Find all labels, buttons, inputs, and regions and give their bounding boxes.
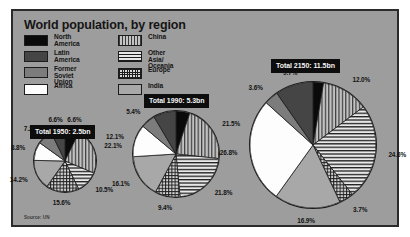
pie-chart-2150: 2.7%12.0%24.6%3.7%16.9%26.8%3.6%9.7%Tota… bbox=[13, 11, 397, 225]
chart-frame: World population, by region North Americ… bbox=[11, 9, 399, 227]
pie-2150-label-india: 16.9% bbox=[297, 217, 315, 223]
chart-figure: World population, by region North Americ… bbox=[0, 0, 410, 237]
pie-2150-label-europe: 3.7% bbox=[353, 206, 367, 212]
pie-2150-slices bbox=[250, 82, 376, 208]
pie-2150-label-other-asia: 24.6% bbox=[388, 151, 406, 157]
pie-2150-label-china: 12.0% bbox=[353, 77, 371, 83]
pie-title-2150: Total 2150: 11.5bn bbox=[271, 59, 340, 73]
pie-2150-label-former-soviet-union: 3.6% bbox=[249, 85, 263, 91]
pie-2150-label-africa: 26.8% bbox=[220, 150, 238, 156]
chart-canvas: World population, by region North Americ… bbox=[13, 11, 397, 225]
source-note: Source: UN bbox=[24, 215, 50, 220]
